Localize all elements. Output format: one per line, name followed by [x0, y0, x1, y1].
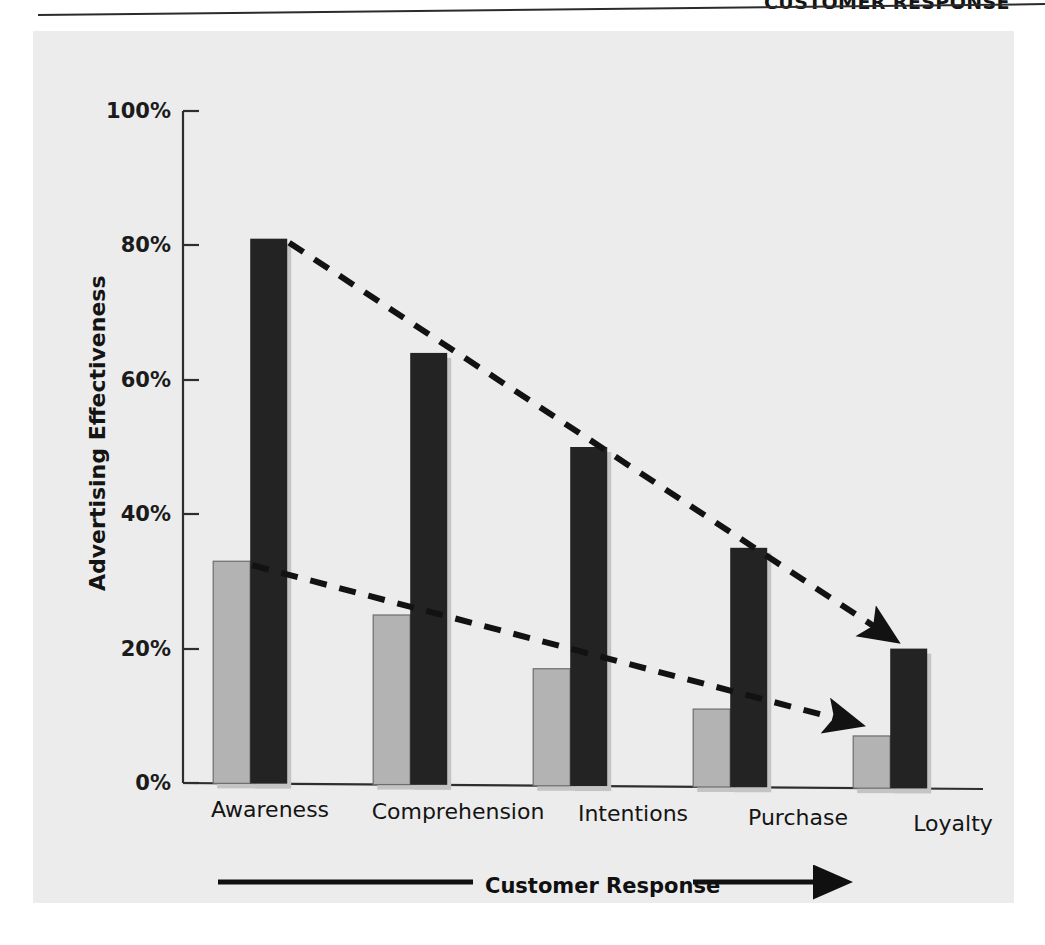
bar-intentions-light[interactable]: [533, 669, 570, 786]
y-tick-label-80: 80%: [61, 233, 171, 257]
bar-comprehension-light[interactable]: [373, 615, 410, 785]
bar-comprehension-dark[interactable]: [410, 353, 447, 785]
y-axis-title: Advertising Effectiveness: [85, 275, 110, 591]
y-tick-label-20: 20%: [61, 637, 171, 661]
y-tick-label-40: 40%: [61, 502, 171, 526]
bars-layer: [213, 239, 931, 794]
chart-figure-panel: 100% 80% 60% 40% 20% 0% Advertising Effe…: [33, 31, 1014, 903]
bar-loyalty-light[interactable]: [853, 736, 890, 788]
x-category-label-loyalty: Loyalty: [853, 811, 1045, 836]
x-axis-title: Customer Response: [485, 874, 720, 898]
y-tick-label-60: 60%: [61, 368, 171, 392]
bar-purchase-light[interactable]: [693, 709, 730, 787]
bar-chart-canvas: [33, 31, 1014, 903]
trend-annotation-layer: [252, 243, 887, 722]
bar-awareness-dark[interactable]: [250, 239, 287, 784]
y-tick-label-100: 100%: [61, 99, 171, 123]
running-header: CUSTOMER RESPONSE: [0, 0, 1045, 22]
bar-intentions-dark[interactable]: [570, 447, 607, 786]
y-tick-label-0: 0%: [61, 771, 171, 795]
bar-awareness-light[interactable]: [213, 561, 250, 783]
bar-purchase-dark[interactable]: [730, 548, 767, 787]
y-axis-ticks: [183, 111, 199, 783]
bar-loyalty-dark[interactable]: [890, 649, 927, 789]
